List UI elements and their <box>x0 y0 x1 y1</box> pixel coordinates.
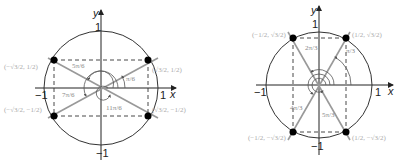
angle-label: 11π/6 <box>106 104 122 112</box>
angle-label: 5π/3 <box>322 111 335 119</box>
tick-neg-y: −1 <box>311 140 324 152</box>
x-axis-label: x <box>169 88 176 100</box>
point-q1 <box>343 35 350 42</box>
tick-neg-x: −1 <box>35 89 48 101</box>
point-q3 <box>290 129 297 136</box>
angle-label: 2π/3 <box>305 44 318 52</box>
point-q4 <box>145 113 152 120</box>
point-q3 <box>51 113 58 120</box>
point-label: (1/2, −√3/2) <box>352 134 387 142</box>
angle-label: 7π/6 <box>62 91 75 99</box>
tick-pos-x: 1 <box>375 86 381 98</box>
angle-label: 4π/3 <box>290 104 303 112</box>
unit-circle-figures: y x 1 −1 1 −1 (√3/2, 1/2) (−√3/2, 1/2) (… <box>0 0 404 166</box>
point-label: (−√3/2, −1/2) <box>4 106 42 114</box>
tick-pos-x: 1 <box>160 89 166 101</box>
point-label: (−√3/2, 1/2) <box>4 63 39 71</box>
point-label: (√3/2, 1/2) <box>152 66 183 74</box>
point-q1 <box>145 57 152 64</box>
angle-label: 5π/6 <box>72 62 85 70</box>
y-axis-label: y <box>310 4 318 16</box>
point-q2 <box>290 35 297 42</box>
point-q2 <box>51 57 58 64</box>
tick-pos-y: 1 <box>95 21 101 33</box>
angle-label: π/3 <box>346 47 355 55</box>
angle-arc <box>335 57 351 85</box>
x-axis-label: x <box>387 85 394 97</box>
y-axis-label: y <box>92 7 100 19</box>
point-label: (−1/2, −√3/2) <box>248 134 286 142</box>
point-label: (√3/2, −1/2) <box>152 106 187 114</box>
point-label: (1/2, √3/2) <box>352 31 383 39</box>
tick-pos-y: 1 <box>312 18 318 30</box>
angle-label: π/6 <box>126 75 135 83</box>
tick-neg-x: −1 <box>254 86 267 98</box>
tick-neg-y: −1 <box>96 147 109 159</box>
point-q4 <box>343 129 350 136</box>
left-unit-circle: y x 1 −1 1 −1 (√3/2, 1/2) (−√3/2, 1/2) (… <box>4 7 187 160</box>
right-unit-circle: y x 1 −1 1 −1 (1/2, √3/2) (−1/2, √3/2) (… <box>248 4 394 155</box>
point-label: (−1/2, √3/2) <box>252 31 287 39</box>
